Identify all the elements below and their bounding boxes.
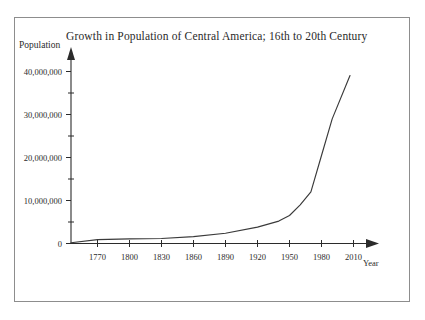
y-tick-label: 20,000,000 (12, 153, 62, 162)
y-tick-label: 10,000,000 (12, 196, 62, 205)
x-tick-label: 1980 (313, 253, 330, 262)
y-tick-label: 40,000,000 (12, 67, 62, 76)
x-tick-label: 1920 (249, 253, 266, 262)
x-tick-label: 1950 (281, 253, 298, 262)
x-tick-label: 1890 (217, 253, 234, 262)
x-axis-arrow-icon (366, 239, 379, 248)
x-tick-label: 1830 (153, 253, 170, 262)
x-tick-label: 2010 (345, 253, 362, 262)
chart-title: Growth in Population of Central America;… (66, 31, 367, 43)
x-tick-label: 1800 (121, 253, 138, 262)
y-tick-label: 30,000,000 (12, 110, 62, 119)
population-line (71, 76, 350, 243)
x-tick-label: 1770 (89, 253, 106, 262)
y-axis-title: Population (19, 41, 60, 51)
x-tick-label: 1860 (185, 253, 202, 262)
y-major-ticks (66, 72, 71, 244)
x-axis-title: Year (363, 259, 379, 268)
chart-plot-area (0, 0, 425, 320)
y-axis-arrow-icon (67, 47, 75, 60)
y-tick-label: 0 (12, 239, 62, 248)
